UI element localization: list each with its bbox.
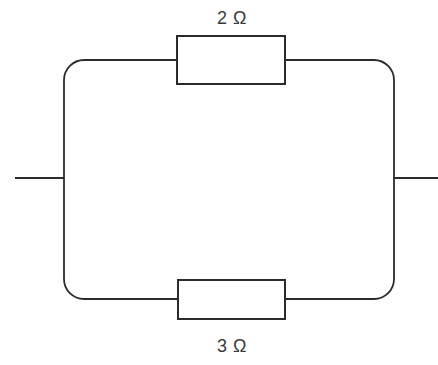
resistor-top-body bbox=[177, 36, 285, 84]
corner-top-left bbox=[64, 60, 84, 80]
resistor-bottom-body bbox=[178, 280, 285, 319]
corner-top-right bbox=[374, 60, 394, 80]
resistor-top-label: 2 Ω bbox=[217, 8, 247, 29]
circuit-schematic-canvas bbox=[0, 0, 438, 365]
corner-bottom-right bbox=[374, 279, 394, 299]
resistor-bottom-label: 3 Ω bbox=[217, 336, 247, 357]
circuit-diagram: 2 Ω 3 Ω bbox=[0, 0, 438, 365]
corner-bottom-left bbox=[64, 279, 84, 299]
